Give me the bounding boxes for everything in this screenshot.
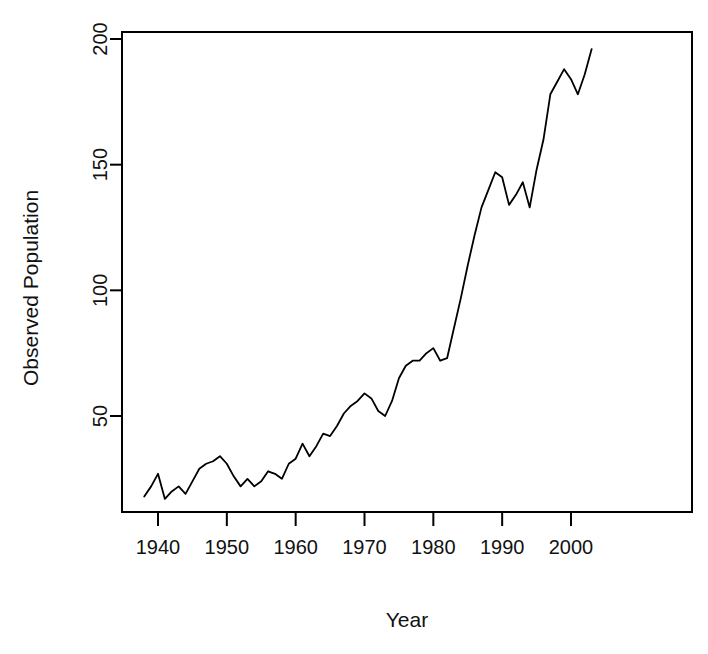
x-tick-label: 1940: [136, 536, 181, 558]
x-tick-label: 2000: [549, 536, 594, 558]
x-tick-label: 1980: [411, 536, 456, 558]
y-tick-label: 200: [89, 22, 111, 55]
y-axis-title: Observed Population: [19, 190, 42, 386]
y-tick-label: 150: [89, 148, 111, 181]
x-axis-title: Year: [386, 608, 428, 631]
x-tick-label: 1990: [480, 536, 525, 558]
y-tick-label: 50: [89, 405, 111, 427]
x-tick-label: 1950: [205, 536, 250, 558]
x-tick-label: 1960: [273, 536, 318, 558]
y-tick-label: 100: [89, 274, 111, 307]
x-tick-label: 1970: [342, 536, 387, 558]
line-chart-figure: 50100150200 1940195019601970198019902000…: [0, 0, 708, 654]
